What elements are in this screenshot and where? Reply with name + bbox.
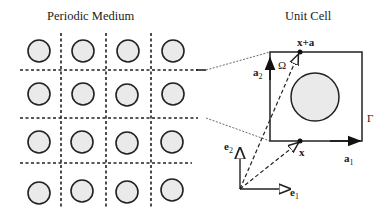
label-a2: a2 <box>253 66 263 81</box>
vector-to-x <box>240 143 298 189</box>
unit-cell-inclusion <box>291 73 339 121</box>
label-x: x <box>299 146 305 158</box>
label-a1: a1 <box>344 152 354 167</box>
periodic-medium-diagram: Periodic Medium Unit Cell <box>0 0 390 223</box>
zoom-guide-lines <box>206 52 270 141</box>
label-e2: e2 <box>224 140 233 155</box>
point-x <box>298 139 303 144</box>
label-x-plus-a: x+a <box>297 36 315 48</box>
label-gamma: Γ <box>367 112 373 124</box>
label-e1: e1 <box>290 186 299 201</box>
periodic-medium-title: Periodic Medium <box>47 9 134 23</box>
label-omega: Ω <box>278 59 286 71</box>
point-x-plus-a <box>298 50 303 55</box>
vector-to-x-plus-a <box>240 55 298 189</box>
unit-cell-title: Unit Cell <box>285 9 332 23</box>
